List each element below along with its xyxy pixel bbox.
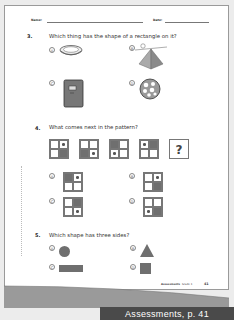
grid-cell-dot xyxy=(73,173,82,182)
page-curl xyxy=(4,280,229,308)
grid-cell-empty xyxy=(140,149,149,158)
q4-option-grid-c xyxy=(63,197,83,217)
copyright-vertical-text xyxy=(21,166,23,256)
q5-option-b[interactable]: B xyxy=(130,245,136,251)
grid-cell-dot xyxy=(110,149,119,158)
grid-cell-filled xyxy=(73,198,82,207)
grid-cell-empty xyxy=(144,198,153,207)
grid-cell-empty xyxy=(144,182,153,191)
ball-icon xyxy=(139,78,161,100)
q4-option-a[interactable]: A xyxy=(49,173,55,179)
date-line xyxy=(165,22,209,23)
q3-option-c[interactable]: C xyxy=(49,80,55,86)
grid-cell-empty xyxy=(50,149,59,158)
grid-cell-empty xyxy=(64,207,73,216)
q3-option-d[interactable]: D xyxy=(129,80,135,86)
grid-cell-empty xyxy=(144,173,153,182)
grid-cell-dot xyxy=(59,140,68,149)
q4-option-grid-d xyxy=(143,197,163,217)
q4-option-b[interactable]: B xyxy=(129,173,135,179)
grid-cell-filled xyxy=(80,149,89,158)
grid-cell-filled xyxy=(149,140,158,149)
rectangle-shape xyxy=(59,265,83,272)
pattern-grid-2 xyxy=(79,139,99,159)
name-label: Name: xyxy=(31,18,42,22)
q4-option-grid-b xyxy=(143,172,163,192)
grid-cell-empty xyxy=(64,182,73,191)
square-shape xyxy=(140,263,151,274)
grid-cell-dot xyxy=(140,140,149,149)
name-line xyxy=(47,22,143,23)
pattern-grid-1 xyxy=(49,139,69,159)
q5-option-a[interactable]: A xyxy=(49,245,55,251)
unknown-pattern-box: ? xyxy=(169,139,189,159)
grid-cell-empty xyxy=(119,140,128,149)
grid-cell-dot xyxy=(144,207,153,216)
grid-cell-empty xyxy=(80,140,89,149)
grid-cell-filled xyxy=(110,140,119,149)
pyramid-icon xyxy=(135,42,167,70)
pattern-grid-3 xyxy=(109,139,129,159)
grid-cell-empty xyxy=(73,182,82,191)
grid-cell-filled xyxy=(153,182,162,191)
pie-dish-icon xyxy=(59,44,83,58)
q4-option-d[interactable]: D xyxy=(129,198,135,204)
grid-cell-dot xyxy=(73,207,82,216)
grid-cell-dot xyxy=(153,173,162,182)
question-5-number: 5. xyxy=(35,232,40,238)
grid-cell-empty xyxy=(50,140,59,149)
grid-cell-dot xyxy=(89,149,98,158)
grid-cell-empty xyxy=(64,198,73,207)
circle-shape xyxy=(59,246,70,257)
date-label: Date: xyxy=(153,18,162,22)
q4-option-c[interactable]: C xyxy=(49,198,55,204)
question-4-text: What comes next in the pattern? xyxy=(49,124,138,130)
q4-option-grid-a xyxy=(63,172,83,192)
triangle-shape xyxy=(140,244,154,257)
grid-cell-filled xyxy=(64,173,73,182)
question-3-text: Which thing has the shape of a rectangle… xyxy=(49,33,177,39)
grid-cell-filled xyxy=(59,149,68,158)
grid-cell-empty xyxy=(119,149,128,158)
grid-cell-empty xyxy=(89,140,98,149)
worksheet-page: Name: Date: 3. Which thing has the shape… xyxy=(4,5,229,290)
q5-option-d[interactable]: D xyxy=(130,264,136,270)
grid-cell-empty xyxy=(153,198,162,207)
page-reference-banner: Assessments, p. 41 xyxy=(100,307,234,320)
question-5-text: Which shape has three sides? xyxy=(49,232,129,238)
book-icon xyxy=(63,79,85,109)
grid-cell-filled xyxy=(153,207,162,216)
pattern-grid-4 xyxy=(139,139,159,159)
question-4-number: 4. xyxy=(35,125,40,131)
q3-option-a[interactable]: A xyxy=(49,47,55,53)
question-3-number: 3. xyxy=(27,33,32,39)
grid-cell-empty xyxy=(149,149,158,158)
q5-option-c[interactable]: C xyxy=(49,264,55,270)
